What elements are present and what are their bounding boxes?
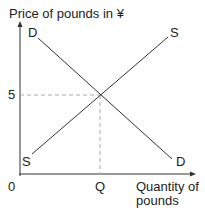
- demand-bottom-label: D: [176, 155, 185, 169]
- supply-top-label: S: [170, 26, 179, 40]
- origin-label: 0: [8, 180, 15, 194]
- x-axis-label-line1: Quantity of: [136, 180, 199, 194]
- y-axis-label: Price of pounds in ¥: [9, 7, 124, 21]
- x-axis-arrow-icon: [190, 172, 196, 177]
- demand-curve: [38, 38, 172, 159]
- supply-bottom-label: S: [22, 155, 31, 169]
- equilibrium-quantity-label: Q: [95, 180, 105, 194]
- x-axis-label-line2: pounds: [136, 194, 179, 208]
- y-axis-arrow-icon: [18, 21, 23, 27]
- demand-top-label: D: [28, 26, 37, 40]
- equilibrium-price-label: 5: [8, 88, 15, 102]
